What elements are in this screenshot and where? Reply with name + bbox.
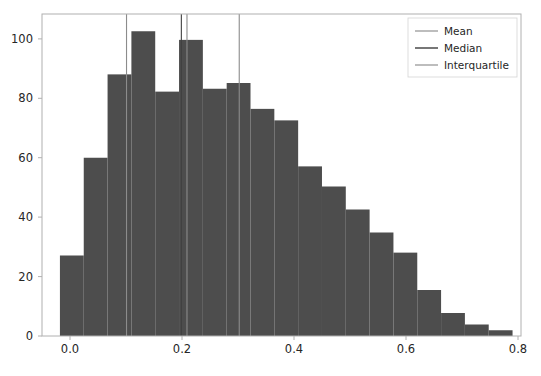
x-tick-4: 0.8 (509, 336, 527, 356)
histogram-bar (489, 330, 513, 336)
legend-label-mean: Mean (444, 25, 473, 37)
legend-label-interquartile: Interquartile (444, 59, 509, 71)
y-tick-2: 40 (18, 210, 42, 224)
histogram-bar (298, 166, 322, 336)
y-axis: 0 20 40 60 80 100 (11, 32, 42, 343)
y-tick-0: 0 (26, 329, 42, 343)
legend-label-median: Median (444, 42, 482, 54)
y-tick-1: 20 (18, 270, 42, 284)
y-tick-label: 40 (18, 210, 33, 224)
x-tick-2: 0.4 (285, 336, 303, 356)
histogram-figure: 0.0 0.2 0.4 0.6 0.8 0 (0, 0, 541, 376)
x-tick-1: 0.2 (173, 336, 191, 356)
y-tick-label: 0 (26, 329, 33, 343)
y-tick-label: 20 (18, 270, 33, 284)
histogram-bar (274, 120, 298, 336)
histogram-bar (227, 83, 251, 336)
histogram-bar (155, 92, 179, 336)
y-tick-label: 60 (18, 151, 33, 165)
histogram-bar (441, 313, 465, 336)
x-tick-label: 0.8 (509, 342, 527, 356)
histogram-bar (393, 253, 417, 336)
histogram-bar (322, 187, 346, 337)
x-tick-label: 0.6 (397, 342, 415, 356)
x-tick-label: 0.0 (61, 342, 79, 356)
x-tick-label: 0.4 (285, 342, 303, 356)
legend: Mean Median Interquartile (408, 18, 517, 77)
y-tick-3: 60 (18, 151, 42, 165)
histogram-bar (179, 40, 203, 336)
histogram-bar (346, 210, 370, 337)
histogram-bar (203, 89, 227, 336)
y-tick-5: 100 (11, 32, 42, 46)
y-tick-4: 80 (18, 91, 42, 105)
x-tick-0: 0.0 (61, 336, 79, 356)
histogram-bar (84, 158, 108, 336)
histogram-bar (370, 233, 394, 337)
histogram-bar (108, 74, 132, 336)
histogram-bar (251, 109, 275, 336)
histogram-bar (131, 31, 155, 336)
x-axis: 0.0 0.2 0.4 0.6 0.8 (61, 336, 527, 356)
histogram-bar (417, 290, 441, 336)
histogram-plot-canvas: 0.0 0.2 0.4 0.6 0.8 0 (0, 0, 541, 376)
x-tick-label: 0.2 (173, 342, 191, 356)
histogram-bar (465, 325, 489, 337)
x-tick-3: 0.6 (397, 336, 415, 356)
y-tick-label: 100 (11, 32, 33, 46)
y-tick-label: 80 (18, 91, 33, 105)
histogram-bar (60, 256, 84, 337)
